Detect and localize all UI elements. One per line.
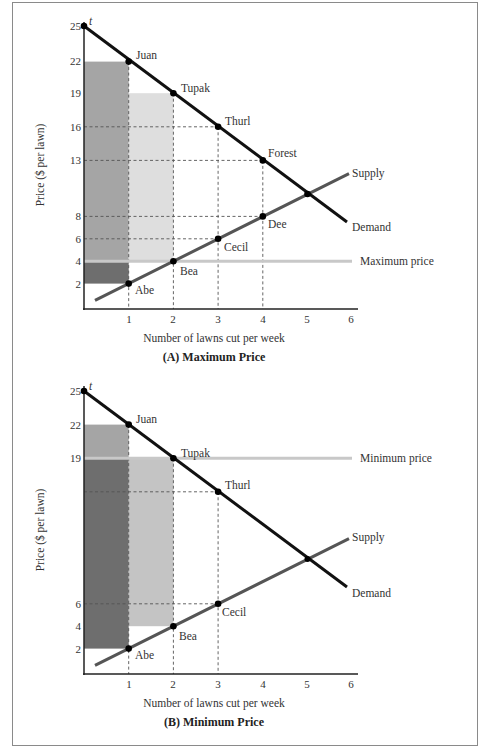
y-tick: 6 xyxy=(76,233,82,245)
y-tick: 2 xyxy=(76,643,82,655)
label-juan: Juan xyxy=(136,49,157,61)
y-tick: 4 xyxy=(76,255,82,267)
y-tick: 13 xyxy=(70,154,82,166)
label-thurl: Thurl xyxy=(225,479,251,491)
label-cecil: Cecil xyxy=(224,241,248,253)
x-tick: 2 xyxy=(170,678,176,690)
y-ticks-a: 25 22 19 16 13 8 6 4 2 xyxy=(70,20,82,290)
shade-b-dark xyxy=(84,458,129,648)
x-tick: 1 xyxy=(126,313,132,325)
label-abe: Abe xyxy=(135,284,154,296)
y-tick: 22 xyxy=(70,419,81,431)
x-ticks-a: 1 2 3 4 5 6 xyxy=(126,313,354,325)
y-tick: 2 xyxy=(76,278,82,290)
x-tick: 2 xyxy=(170,313,176,325)
label-forest: Forest xyxy=(268,147,298,159)
figure-canvas: 25 22 19 16 13 8 6 4 2 1 2 3 4 5 6 t Jua… xyxy=(0,0,482,752)
label-supply: Supply xyxy=(352,531,385,544)
y-tick: 8 xyxy=(76,210,82,222)
shade-b-light xyxy=(129,458,174,626)
x-tick: 1 xyxy=(126,678,132,690)
label-supply: Supply xyxy=(352,167,385,180)
x-ticks-b: 1 2 3 4 5 6 xyxy=(126,678,354,690)
x-tick: 5 xyxy=(304,313,310,325)
label-bea: Bea xyxy=(180,265,198,277)
panel-a: 25 22 19 16 13 8 6 4 2 1 2 3 4 5 6 t Jua… xyxy=(34,15,434,364)
label-cecil: Cecil xyxy=(222,606,246,618)
y-axis-label-a: Price ($ per lawn) xyxy=(34,123,47,206)
y-tick: 25 xyxy=(70,20,82,32)
label-abe: Abe xyxy=(135,649,154,661)
label-bea: Bea xyxy=(179,630,197,642)
x-tick: 4 xyxy=(260,313,266,325)
y-axis-label-b: Price ($ per lawn) xyxy=(34,488,47,571)
label-dee: Dee xyxy=(268,218,287,230)
y-tick: 4 xyxy=(76,620,82,632)
shade-b-medium xyxy=(84,425,129,459)
x-tick: 3 xyxy=(215,678,221,690)
label-thurl: Thurl xyxy=(225,115,251,127)
x-axis-label-b: Number of lawns cut per week xyxy=(143,697,285,710)
t-label: t xyxy=(89,15,93,27)
label-tupak: Tupak xyxy=(181,447,210,460)
shade-a-light xyxy=(129,93,174,261)
label-tupak: Tupak xyxy=(181,82,210,95)
y-ticks-b: 25 22 19 6 4 2 xyxy=(70,385,82,655)
y-tick: 22 xyxy=(70,55,81,67)
label-juan: Juan xyxy=(136,413,157,425)
x-axis-label-a: Number of lawns cut per week xyxy=(143,332,285,345)
y-tick: 6 xyxy=(76,598,82,610)
label-demand: Demand xyxy=(352,221,391,233)
label-minimum-price: Minimum price xyxy=(360,452,432,465)
x-tick: 6 xyxy=(348,678,354,690)
panel-title-b: (B) Minimum Price xyxy=(164,715,265,729)
x-tick: 5 xyxy=(304,678,310,690)
y-tick: 25 xyxy=(70,385,82,397)
y-tick: 16 xyxy=(70,121,82,133)
shade-a-medium xyxy=(84,62,129,264)
label-demand: Demand xyxy=(352,587,391,599)
panel-title-a: (A) Maximum Price xyxy=(163,350,266,364)
x-tick: 3 xyxy=(215,313,221,325)
y-tick: 19 xyxy=(70,452,82,464)
t-label: t xyxy=(89,380,93,392)
y-tick: 19 xyxy=(70,87,82,99)
shade-a-dark xyxy=(84,261,129,283)
x-tick: 6 xyxy=(348,313,354,325)
label-maximum-price: Maximum price xyxy=(360,255,434,268)
panel-b: 25 22 19 6 4 2 1 2 3 4 5 6 t Juan Tupak … xyxy=(34,380,432,729)
x-tick: 4 xyxy=(260,678,266,690)
